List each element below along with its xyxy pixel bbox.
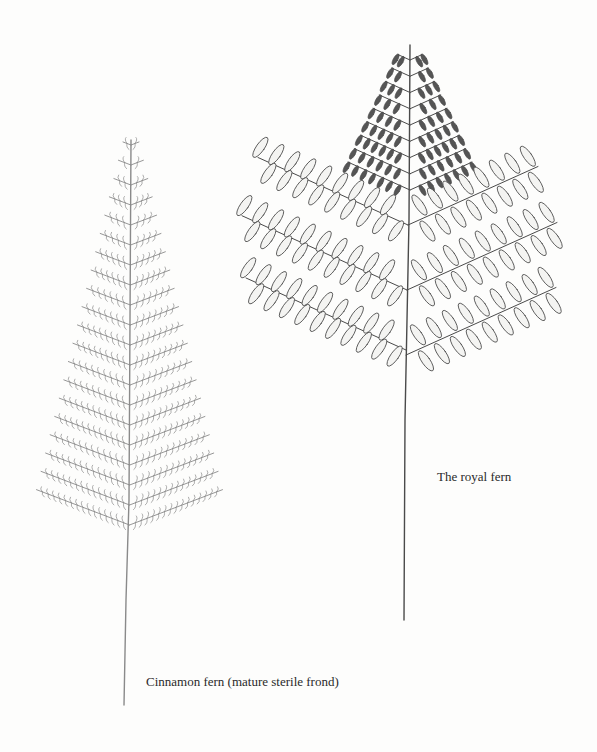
royal-fern-caption: The royal fern xyxy=(437,469,511,485)
botanical-plate: The royal fern Cinnamon fern (mature ste… xyxy=(0,0,597,752)
royal-fern-illustration xyxy=(0,0,597,752)
cinnamon-fern-caption: Cinnamon fern (mature sterile frond) xyxy=(146,674,339,690)
